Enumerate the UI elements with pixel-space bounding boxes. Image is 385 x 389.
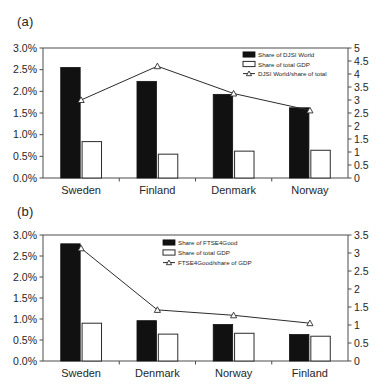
legend-swatch (243, 61, 255, 66)
right-axis-tick-label: 0.5 (354, 337, 369, 349)
left-axis-tick-label: 2.5% (13, 63, 37, 75)
right-axis-tick-label: 2 (354, 283, 360, 295)
right-axis-tick-label: 2.5 (354, 265, 369, 277)
legend-label: Share of total GDP (178, 249, 230, 256)
left-axis-tick-label: 1.0% (13, 128, 37, 140)
category-label: Finland (139, 184, 175, 196)
right-axis-tick-label: 2 (354, 120, 360, 132)
chart-a-svg: 0.0%0.5%1.0%1.5%2.0%2.5%3.0%00.511.522.5… (0, 0, 385, 196)
bar-denmark-primary (213, 94, 232, 178)
category-label: Norway (215, 367, 253, 379)
bar-norway-primary (213, 324, 232, 361)
legend-swatch (163, 250, 175, 255)
bar-finland-gdp (158, 154, 177, 178)
right-axis-tick-label: 1.5 (354, 133, 369, 145)
bar-norway-gdp (235, 333, 254, 361)
right-axis-tick-label: 3 (354, 247, 360, 259)
right-axis-tick-label: 1 (354, 319, 360, 331)
chart-b-svg: 0.0%0.5%1.0%1.5%2.0%2.5%3.0%00.511.522.5… (0, 196, 385, 389)
left-axis-tick-label: 0.5% (13, 150, 37, 162)
right-axis-tick-label: 1.5 (354, 301, 369, 313)
bar-denmark-gdp (235, 151, 254, 178)
bar-finland-primary (137, 81, 156, 178)
bar-sweden-gdp (82, 142, 101, 178)
category-label: Denmark (211, 184, 256, 196)
legend-label: FTSE4Good/share of GDP (178, 259, 252, 266)
category-label: Sweden (61, 184, 101, 196)
left-axis-tick-label: 1.5% (13, 107, 37, 119)
legend-label: Share of DJSI World (258, 51, 315, 58)
bar-sweden-primary (61, 68, 80, 179)
category-label: Sweden (61, 367, 101, 379)
bar-sweden-primary (61, 244, 80, 361)
left-axis-tick-label: 1.5% (13, 292, 37, 304)
bar-norway-gdp (311, 150, 330, 178)
category-label: Norway (291, 184, 329, 196)
bar-sweden-gdp (82, 323, 101, 361)
legend-swatch (243, 52, 255, 57)
right-axis-tick-label: 3.5 (354, 81, 369, 93)
chart-panel-b: (b) 0.0%0.5%1.0%1.5%2.0%2.5%3.0%00.511.5… (0, 196, 385, 389)
right-axis-tick-label: 5 (354, 42, 360, 54)
bar-denmark-gdp (158, 334, 177, 361)
legend-label: DJSI World/share of total (258, 70, 327, 77)
left-axis-tick-label: 3.0% (13, 229, 37, 241)
bar-norway-primary (289, 108, 308, 178)
right-axis-tick-label: 0.5 (354, 159, 369, 171)
legend-swatch (163, 240, 175, 245)
right-axis-tick-label: 3.5 (354, 229, 369, 241)
left-axis-tick-label: 0.5% (13, 334, 37, 346)
left-axis-tick-label: 2.0% (13, 85, 37, 97)
left-axis-tick-label: 0.0% (13, 355, 37, 367)
left-axis-tick-label: 0.0% (13, 172, 37, 184)
right-axis-tick-label: 4 (354, 68, 360, 80)
figure-container: (a) 0.0%0.5%1.0%1.5%2.0%2.5%3.0%00.511.5… (0, 0, 385, 389)
right-axis-tick-label: 3 (354, 94, 360, 106)
right-axis-tick-label: 1 (354, 146, 360, 158)
right-axis-tick-label: 2.5 (354, 107, 369, 119)
legend-label: Share of FTSE4Good (178, 239, 238, 246)
bar-finland-primary (289, 335, 308, 361)
bar-denmark-primary (137, 321, 156, 361)
bar-finland-gdp (311, 336, 330, 361)
left-axis-tick-label: 1.0% (13, 313, 37, 325)
ratio-marker (154, 63, 160, 69)
chart-panel-a: (a) 0.0%0.5%1.0%1.5%2.0%2.5%3.0%00.511.5… (0, 0, 385, 196)
left-axis-tick-label: 2.0% (13, 271, 37, 283)
right-axis-tick-label: 0 (354, 355, 360, 367)
category-label: Finland (292, 367, 328, 379)
left-axis-tick-label: 2.5% (13, 250, 37, 262)
legend-label: Share of total GDP (258, 61, 310, 68)
right-axis-tick-label: 0 (354, 172, 360, 184)
left-axis-tick-label: 3.0% (13, 42, 37, 54)
category-label: Denmark (135, 367, 180, 379)
right-axis-tick-label: 4.5 (354, 55, 369, 67)
